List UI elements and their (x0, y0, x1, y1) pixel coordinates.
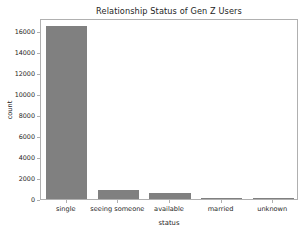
chart-title: Relationship Status of Gen Z Users (40, 6, 298, 16)
y-tick-label: 4000 (19, 154, 35, 162)
x-tick-mark (221, 200, 222, 203)
y-tick-label: 8000 (19, 112, 35, 120)
y-tick-label: 14000 (15, 49, 35, 57)
y-tick-label: 16000 (15, 28, 35, 36)
x-axis-label: status (40, 219, 298, 227)
x-tick-label: available (154, 205, 184, 213)
bar-unknown (253, 198, 294, 199)
bar-available (149, 193, 190, 199)
y-tick-label: 0 (31, 196, 35, 204)
plot-area (40, 19, 298, 200)
bar-single (46, 26, 87, 199)
x-tick-mark (66, 200, 67, 203)
x-axis: status singleseeing someoneavailablemarr… (40, 200, 298, 235)
x-tick-label: seeing someone (90, 205, 144, 213)
x-tick-mark (117, 200, 118, 203)
x-tick-mark (169, 200, 170, 203)
y-tick-label: 6000 (19, 133, 35, 141)
x-tick-label: single (56, 205, 76, 213)
y-tick-label: 2000 (19, 175, 35, 183)
bar-seeing-someone (98, 190, 139, 199)
y-axis-label: count (6, 100, 14, 119)
bars-layer (41, 20, 297, 199)
x-tick-label: unknown (257, 205, 287, 213)
x-tick-mark (272, 200, 273, 203)
y-tick-label: 12000 (15, 70, 35, 78)
y-axis: count 0200040006000800010000120001400016… (0, 19, 40, 200)
chart-figure: Relationship Status of Gen Z Users count… (0, 0, 308, 235)
x-tick-label: married (208, 205, 234, 213)
bar-married (201, 198, 242, 199)
y-tick-label: 10000 (15, 91, 35, 99)
